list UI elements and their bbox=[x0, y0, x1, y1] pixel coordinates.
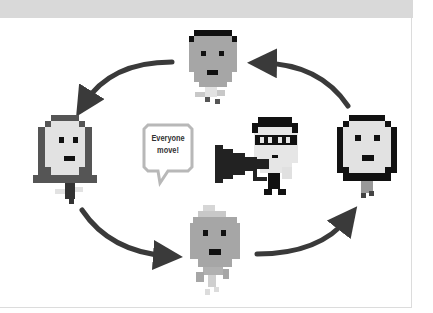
eye-icon bbox=[355, 135, 361, 141]
eye-icon bbox=[374, 135, 380, 141]
speech-bubble-text: Everyone move! bbox=[150, 132, 186, 156]
arrow-left-to-bottom-icon bbox=[82, 210, 168, 256]
eye-icon bbox=[221, 230, 226, 236]
eye-icon bbox=[201, 51, 206, 56]
eye-icon bbox=[219, 51, 224, 56]
arrow-top-to-left-icon bbox=[84, 62, 172, 104]
mouth-icon bbox=[272, 155, 278, 158]
mouth-icon bbox=[209, 249, 221, 255]
mouth-icon bbox=[64, 156, 75, 161]
eye-icon bbox=[59, 137, 64, 143]
eye-icon bbox=[203, 230, 208, 236]
mouth-icon bbox=[362, 155, 374, 161]
speech-line-1: Everyone bbox=[150, 132, 186, 144]
speech-line-2: move! bbox=[150, 144, 186, 156]
arrow-right-to-top-icon bbox=[262, 63, 348, 106]
arrow-bottom-to-right-icon bbox=[257, 218, 348, 254]
eye-icon bbox=[73, 137, 78, 143]
mouth-icon bbox=[207, 70, 218, 75]
